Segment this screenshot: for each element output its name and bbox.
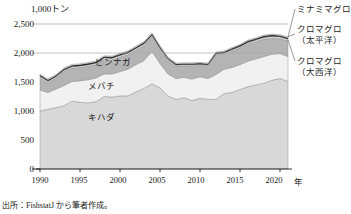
callout-label-kuromaguro-atlantic-line1: クロマグロ — [297, 56, 342, 67]
y-tick-500: 500 — [0, 135, 34, 145]
callout-label-kuromaguro-atlantic-line2: （大西洋） — [297, 67, 342, 78]
area-label-mebachi: メバチ — [88, 79, 115, 91]
x-tick-2020: 2020 — [254, 175, 294, 185]
callout-leader-lines — [288, 9, 295, 61]
y-tick-0: 0 — [0, 164, 34, 174]
area-label-kihada: キハダ — [88, 110, 115, 122]
leader-minamimaguro — [288, 9, 295, 37]
y-tick-2000: 2,000 — [0, 48, 34, 58]
leader-kuromaguro-atlantic — [288, 40, 295, 61]
callout-label-minamimaguro: ミナミマグロ — [297, 4, 351, 15]
callout-label-kuromaguro-pacific-line2: （太平洋） — [297, 35, 342, 46]
x-tick-2005: 2005 — [137, 175, 177, 185]
area-label-binnaga: ビンナガ — [95, 55, 131, 67]
x-tick-2000: 2000 — [98, 175, 138, 185]
y-tick-1500: 1,500 — [0, 77, 34, 87]
leader-kuromaguro-pacific — [288, 34, 295, 37]
source-note: 出所：FishstatJ から筆者作成。 — [2, 199, 112, 210]
x-tick-1990: 1990 — [20, 175, 60, 185]
y-tick-2500: 2,500 — [0, 19, 34, 29]
x-tick-2010: 2010 — [176, 175, 216, 185]
x-tick-2015: 2015 — [215, 175, 255, 185]
callout-label-kuromaguro-pacific-line1: クロマグロ — [297, 24, 342, 35]
x-tick-1995: 1995 — [59, 175, 99, 185]
x-axis-unit-label: 年 — [294, 175, 303, 187]
y-axis-unit-label: 1,000トン — [31, 2, 69, 15]
y-tick-1000: 1,000 — [0, 106, 34, 116]
